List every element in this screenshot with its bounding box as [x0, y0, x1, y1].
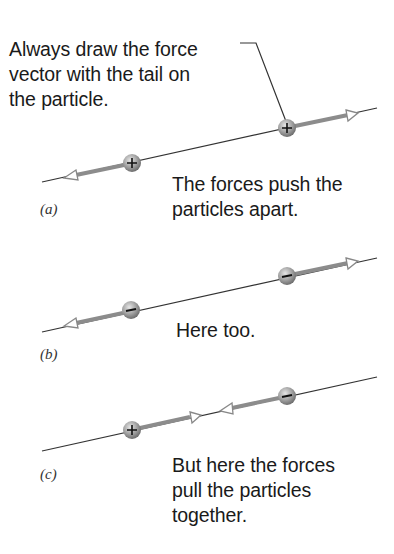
arrowhead-icon: [220, 403, 233, 414]
force-vector-left: [76, 165, 124, 175]
arrowhead-icon: [346, 258, 358, 269]
particle-positive-icon: [123, 154, 141, 172]
panel-b-caption: Here too.: [176, 318, 255, 343]
force-vector-right: [295, 115, 348, 126]
panel-c-diagram: [42, 377, 377, 451]
particle-positive-icon: [123, 421, 141, 439]
force-vector-left: [76, 313, 123, 323]
arrowhead-icon: [64, 170, 78, 180]
panel-c-label: (c): [40, 466, 57, 483]
panel-b-label: (b): [40, 346, 58, 363]
arrowhead-icon: [346, 110, 358, 121]
arrowhead-icon: [190, 412, 201, 423]
panel-a-diagram: [42, 108, 377, 182]
arrowhead-icon: [64, 318, 78, 328]
force-vector-right: [140, 417, 190, 428]
panel-a-label: (a): [40, 201, 58, 218]
axis-line: [42, 377, 377, 451]
particle-negative-icon: [278, 267, 296, 285]
panel-c-caption: But here the forces pull the particles t…: [172, 453, 335, 528]
callout-leader: [240, 43, 287, 124]
force-vector-right: [295, 263, 348, 274]
particle-negative-icon: [122, 301, 140, 319]
particle-positive-icon: [278, 119, 296, 137]
force-vector-left: [232, 398, 279, 408]
panel-a-caption: The forces push the particles apart.: [172, 172, 342, 222]
particle-negative-icon: [278, 387, 296, 405]
